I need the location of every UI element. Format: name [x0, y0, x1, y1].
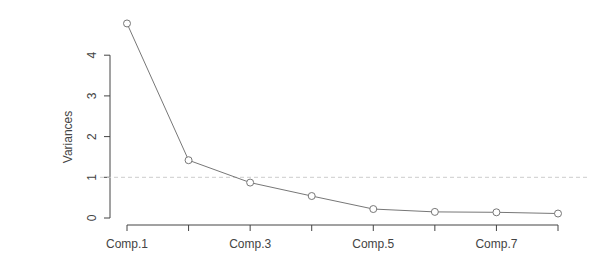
data-point: [555, 210, 562, 217]
data-point: [370, 206, 377, 213]
y-tick-label: 0: [85, 214, 99, 221]
y-tick-label: 2: [85, 133, 99, 140]
data-point: [185, 157, 192, 164]
data-points: [124, 20, 562, 217]
x-tick-label: Comp.1: [106, 237, 148, 251]
data-point: [308, 193, 315, 200]
data-point: [493, 209, 500, 216]
series-line: [127, 23, 558, 213]
data-point: [247, 179, 254, 186]
data-point: [124, 20, 131, 27]
x-tick-label: Comp.5: [352, 237, 394, 251]
x-axis: Comp.1Comp.3Comp.5Comp.7: [106, 225, 558, 251]
x-tick-label: Comp.3: [229, 237, 271, 251]
y-tick-label: 3: [85, 92, 99, 99]
data-point: [431, 208, 438, 215]
y-tick-label: 4: [85, 52, 99, 59]
y-axis-label: Variances: [61, 111, 75, 163]
scree-plot: 01234 Comp.1Comp.3Comp.5Comp.7 Variances: [0, 0, 595, 273]
x-tick-label: Comp.7: [475, 237, 517, 251]
y-tick-label: 1: [85, 174, 99, 181]
y-axis: 01234: [85, 52, 110, 222]
